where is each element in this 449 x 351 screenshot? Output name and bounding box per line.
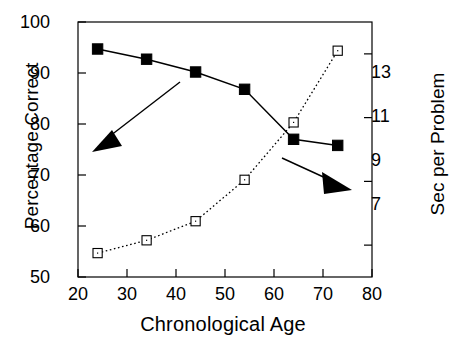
arrow-to-right-axis-icon (282, 158, 352, 194)
series-1 (92, 44, 343, 151)
arrow-to-left-axis-icon (92, 82, 180, 152)
series-2 (93, 46, 342, 258)
data-series-layer (92, 44, 343, 258)
data-point (333, 140, 343, 150)
data-point (239, 84, 249, 94)
data-point (288, 134, 298, 144)
data-point (141, 54, 151, 64)
data-point (190, 67, 200, 77)
axis-ticks (78, 22, 372, 277)
axes-frame (78, 22, 372, 277)
data-point (92, 44, 102, 54)
